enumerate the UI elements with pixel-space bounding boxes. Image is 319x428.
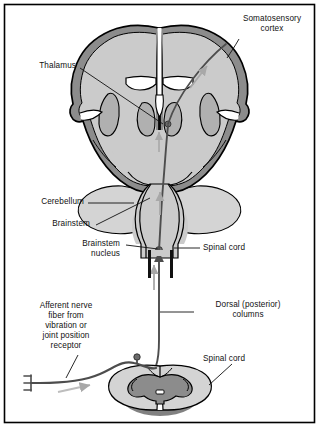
figure-frame: Somatosensory cortex Thalamus Cerebellum… xyxy=(0,0,319,428)
label-brainstem: Brainstem xyxy=(12,219,90,229)
label-spinal-cord-upper: Spinal cord xyxy=(203,243,279,253)
anatomy-figure: Somatosensory cortex Thalamus Cerebellum… xyxy=(0,0,319,428)
cord-edge-left xyxy=(148,250,151,278)
lateral-ventricle-right xyxy=(163,77,193,91)
dorsal-root-ganglion xyxy=(134,354,140,360)
label-thalamus: Thalamus xyxy=(8,61,76,71)
thalamus-left xyxy=(137,103,155,136)
central-canal xyxy=(156,390,164,394)
cord-fill-upper xyxy=(151,250,170,256)
label-brainstem-nucleus: Brainstem nucleus xyxy=(42,239,120,259)
cord-edge-right xyxy=(170,250,173,278)
label-somatosensory-cortex: Somatosensory cortex xyxy=(228,14,316,34)
lateral-ventricle-left xyxy=(126,77,156,91)
label-cerebellum: Cerebellum xyxy=(6,197,84,207)
label-spinal-cord-lower: Spinal cord xyxy=(203,354,279,364)
label-afferent-nerve-fiber: Afferent nerve fiber from vibration or j… xyxy=(20,301,112,351)
midline-gap xyxy=(158,28,162,96)
label-dorsal-columns: Dorsal (posterior) columns xyxy=(196,300,300,320)
